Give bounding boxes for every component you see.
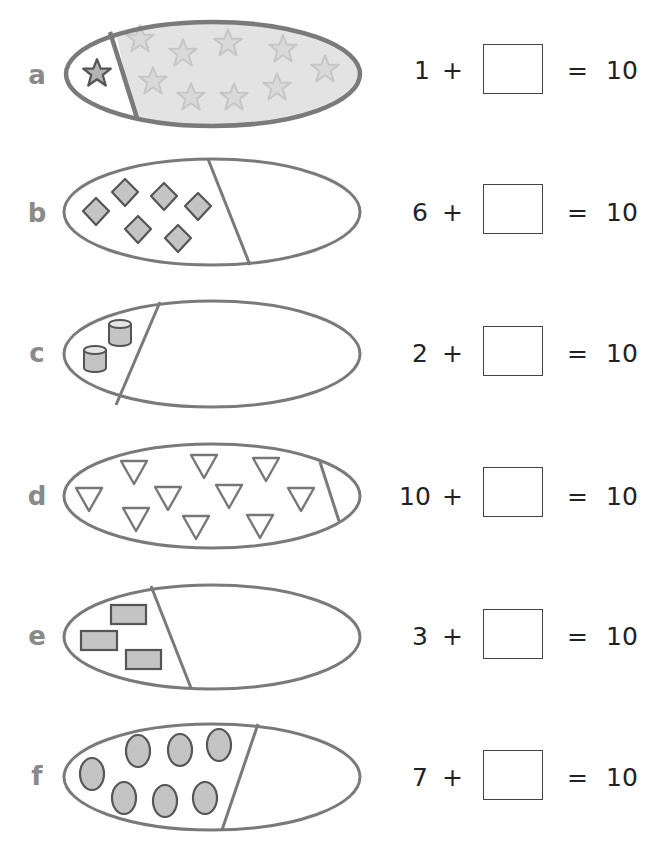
- oval-set-picture: [0, 712, 380, 842]
- exercise-row-f: f 7 + = 10: [0, 712, 663, 842]
- addend: 2: [412, 339, 428, 368]
- total: 10: [606, 339, 638, 368]
- exercise-row-b: b 6 + = 10: [0, 150, 663, 280]
- addend: 6: [412, 198, 428, 227]
- equals-sign: =: [567, 482, 588, 511]
- equals-sign: =: [567, 198, 588, 227]
- star-set-picture: [0, 10, 380, 140]
- oval-icon: [112, 782, 136, 814]
- equals-sign: =: [567, 763, 588, 792]
- rectangle-icon: [126, 650, 161, 669]
- oval-icon: [168, 734, 192, 766]
- rectangle-icon: [111, 605, 146, 624]
- total: 10: [606, 482, 638, 511]
- exercise-row-a: a 1 + = 10: [0, 10, 663, 140]
- addend: 1: [414, 56, 430, 85]
- answer-box[interactable]: [483, 750, 543, 800]
- rectangle-set-picture: [0, 575, 380, 705]
- total: 10: [606, 56, 638, 85]
- diamond-set-picture: [0, 150, 380, 280]
- plus-sign: +: [442, 339, 463, 368]
- addend: 10: [399, 482, 431, 511]
- plus-sign: +: [442, 56, 463, 85]
- plus-sign: +: [442, 622, 463, 651]
- cylinder-set-picture: [0, 292, 380, 422]
- cylinder-icon: [109, 320, 131, 346]
- total: 10: [606, 198, 638, 227]
- oval-icon: [193, 782, 217, 814]
- addend: 7: [412, 763, 428, 792]
- triangle-set-picture: [0, 433, 380, 563]
- exercise-row-d: d 10 + = 10: [0, 433, 663, 563]
- plus-sign: +: [442, 482, 463, 511]
- answer-box[interactable]: [483, 184, 543, 234]
- oval-icon: [207, 729, 231, 761]
- equals-sign: =: [567, 339, 588, 368]
- plus-sign: +: [442, 198, 463, 227]
- total: 10: [606, 763, 638, 792]
- star-icon: [83, 59, 111, 85]
- exercise-row-e: e 3 + = 10: [0, 575, 663, 705]
- answer-box[interactable]: [483, 44, 543, 94]
- addend: 3: [412, 622, 428, 651]
- equals-sign: =: [567, 622, 588, 651]
- oval-icon: [153, 785, 177, 817]
- exercise-row-c: c 2 + = 10: [0, 292, 663, 422]
- answer-box[interactable]: [483, 609, 543, 659]
- answer-box[interactable]: [483, 467, 543, 517]
- rectangle-icon: [81, 631, 117, 650]
- oval-icon: [80, 758, 104, 790]
- answer-box[interactable]: [483, 326, 543, 376]
- total: 10: [606, 622, 638, 651]
- equals-sign: =: [567, 56, 588, 85]
- cylinder-icon: [84, 346, 106, 372]
- oval-icon: [126, 735, 150, 767]
- plus-sign: +: [442, 763, 463, 792]
